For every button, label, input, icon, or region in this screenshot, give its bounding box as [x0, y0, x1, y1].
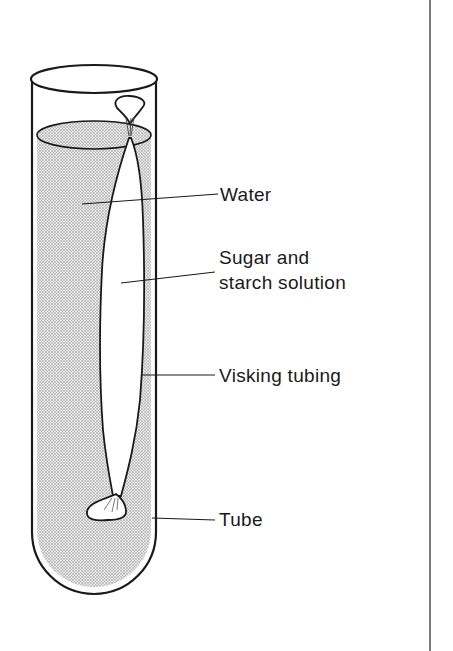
- apparatus-drawing: [0, 0, 453, 651]
- label-solution-line1: Sugar and: [219, 246, 309, 269]
- leader-tube: [152, 518, 215, 520]
- label-solution-line2: starch solution: [219, 271, 346, 294]
- top-knot: [115, 96, 144, 124]
- label-water: Water: [220, 183, 271, 206]
- label-visking-tubing: Visking tubing: [219, 364, 341, 387]
- test-tube-rim: [31, 65, 157, 93]
- label-tube: Tube: [219, 508, 263, 531]
- diagram-canvas: Water Sugar and starch solution Visking …: [0, 0, 453, 651]
